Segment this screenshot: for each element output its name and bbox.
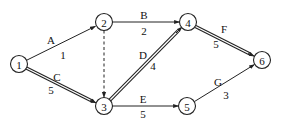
label-duration-G: 3 — [223, 89, 229, 101]
node-1: 1 — [11, 56, 28, 73]
node-4: 4 — [180, 14, 197, 31]
label-duration-F: 5 — [213, 38, 219, 50]
edge-C — [26, 68, 96, 103]
label-duration-D: 4 — [150, 60, 156, 72]
node-2-label: 2 — [101, 17, 107, 29]
node-5-label: 5 — [184, 101, 190, 113]
label-activity-G: G — [214, 76, 222, 88]
network-diagram: A 1 C 5 B 2 D 4 E 5 F 5 G 3 1 2 3 4 5 6 — [0, 0, 283, 125]
label-activity-D: D — [139, 49, 147, 61]
label-duration-B: 2 — [141, 25, 147, 37]
label-activity-F: F — [221, 23, 227, 35]
node-2: 2 — [96, 14, 113, 31]
node-5: 5 — [179, 98, 196, 115]
node-3-label: 3 — [101, 101, 107, 113]
label-activity-A: A — [47, 34, 55, 46]
label-activity-E: E — [140, 93, 147, 105]
node-6: 6 — [254, 52, 271, 69]
label-duration-C: 5 — [48, 84, 54, 96]
node-6-label: 6 — [259, 55, 265, 67]
node-3: 3 — [96, 98, 113, 115]
label-duration-A: 1 — [60, 49, 66, 61]
label-activity-B: B — [140, 9, 147, 21]
label-duration-E: 5 — [140, 108, 146, 120]
label-activity-C: C — [53, 71, 60, 83]
edge-D — [110, 27, 182, 100]
node-4-label: 4 — [185, 17, 191, 29]
node-1-label: 1 — [16, 59, 22, 71]
